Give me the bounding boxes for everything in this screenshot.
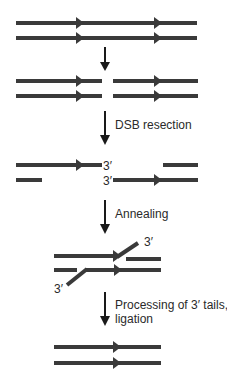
repeat-arrow-icon [76, 17, 84, 29]
repeat-arrow-icon [154, 90, 162, 102]
three-prime-label: 3′ [54, 282, 64, 296]
repeat-arrow-icon [154, 174, 162, 186]
repeat-arrow-icon [76, 75, 84, 87]
processing-label-line2: ligation [115, 312, 153, 326]
repeat-arrow-icon [76, 90, 84, 102]
repeat-arrow-icon [113, 357, 121, 369]
top-3prime-tail [117, 243, 138, 257]
broken-duplex [16, 75, 198, 102]
repeat-arrow-icon [76, 32, 84, 44]
resected-ends: 3′ 3′ [16, 159, 198, 188]
three-prime-label: 3′ [103, 174, 113, 188]
dsb-resection-label: DSB resection [115, 118, 192, 132]
ssa-repair-diagram: DSB resection 3′ 3′ Annealing 3′ 3′ Proc… [0, 0, 227, 382]
repeat-arrow-icon [154, 75, 162, 87]
down-arrow-icon [100, 224, 110, 234]
step-arrow-resection: DSB resection [100, 111, 192, 145]
intact-duplex [16, 17, 197, 44]
down-arrow-icon [100, 62, 110, 71]
repeat-arrow-icon [113, 341, 121, 353]
repaired-duplex [54, 341, 161, 369]
down-arrow-icon [100, 316, 110, 326]
repeat-arrow-icon [114, 264, 122, 276]
annealed-intermediate: 3′ 3′ [54, 235, 161, 296]
annealing-label: Annealing [115, 207, 168, 221]
three-prime-label: 3′ [103, 159, 113, 173]
step-arrow-processing: Processing of 3′ tails, ligation [100, 292, 227, 326]
step-arrow-break [100, 47, 110, 71]
down-arrow-icon [100, 135, 110, 145]
processing-label-line1: Processing of 3′ tails, [115, 298, 227, 312]
step-arrow-annealing: Annealing [100, 200, 168, 234]
repeat-arrow-icon [154, 32, 162, 44]
repeat-arrow-icon [76, 159, 84, 171]
repeat-arrow-icon [154, 17, 162, 29]
three-prime-label: 3′ [144, 235, 154, 249]
